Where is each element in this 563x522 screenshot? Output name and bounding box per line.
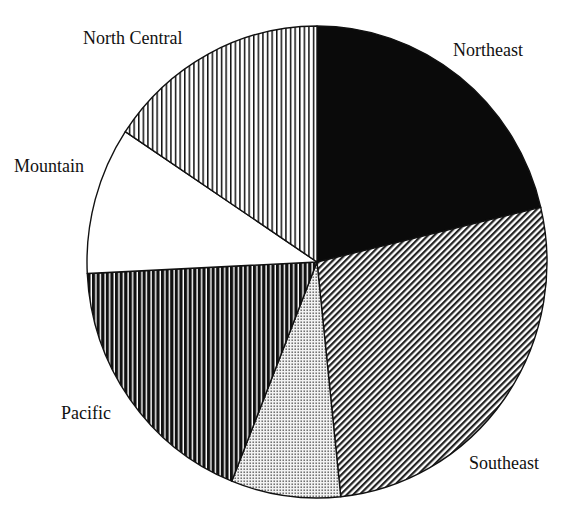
label-north-central: North Central <box>83 29 182 47</box>
label-mountain: Mountain <box>14 157 84 175</box>
pie-slices <box>87 26 547 498</box>
label-pacific: Pacific <box>61 404 111 422</box>
label-southeast: Southeast <box>469 454 539 472</box>
label-northeast: Northeast <box>453 41 523 59</box>
pie-chart <box>0 0 563 522</box>
